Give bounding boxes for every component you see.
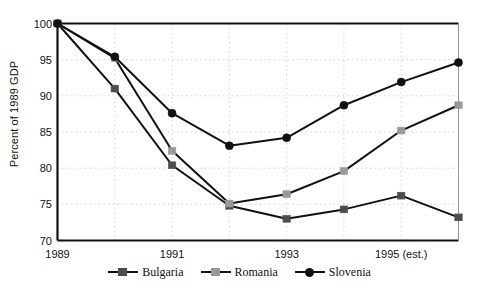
chart-figure: Percent of 1989 GDP 707580859095100 1989… (0, 0, 479, 293)
point-slovenia-1991 (168, 109, 176, 117)
point-slovenia-1995 (397, 78, 405, 86)
point-slovenia-1990 (111, 53, 119, 61)
point-romania-1996 (455, 102, 462, 109)
point-slovenia-1989 (54, 20, 62, 28)
point-bulgaria-1995 (398, 192, 405, 199)
plot-area (0, 0, 479, 293)
line-bulgaria (58, 24, 459, 219)
point-bulgaria-1996 (455, 214, 462, 221)
point-bulgaria-1991 (168, 162, 175, 169)
legend-marker-romania (201, 267, 231, 277)
point-bulgaria-1990 (111, 85, 118, 92)
legend-label-romania: Romania (235, 266, 278, 278)
point-slovenia-1993 (283, 134, 291, 142)
legend-item-romania[interactable]: Romania (201, 266, 278, 278)
line-romania (58, 24, 459, 204)
legend-marker-slovenia (295, 267, 325, 277)
point-romania-1992 (226, 200, 233, 207)
point-slovenia-1994 (340, 101, 348, 109)
legend-label-bulgaria: Bulgaria (142, 266, 183, 278)
point-slovenia-1992 (225, 142, 233, 150)
legend-marker-bulgaria (108, 267, 138, 277)
series-romania (54, 20, 462, 207)
point-romania-1991 (168, 147, 175, 154)
point-bulgaria-1994 (340, 206, 347, 213)
point-bulgaria-1993 (283, 215, 290, 222)
point-slovenia-1996 (455, 59, 463, 67)
chart-legend: BulgariaRomaniaSlovenia (0, 266, 479, 278)
point-romania-1995 (398, 127, 405, 134)
legend-item-bulgaria[interactable]: Bulgaria (108, 266, 183, 278)
legend-label-slovenia: Slovenia (329, 266, 371, 278)
point-romania-1994 (340, 168, 347, 175)
point-romania-1993 (283, 191, 290, 198)
legend-item-slovenia[interactable]: Slovenia (295, 266, 371, 278)
